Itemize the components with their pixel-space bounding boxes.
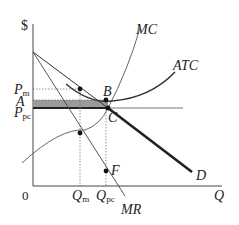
y-axis-label: $ — [21, 18, 28, 33]
point-mr-mc — [78, 131, 83, 136]
origin-label: 0 — [22, 188, 29, 203]
point-c-label: C — [108, 110, 118, 125]
qm-label: Qm — [72, 188, 89, 204]
point-f — [104, 169, 109, 174]
demand-label: D — [195, 168, 206, 183]
point-b-label: B — [103, 84, 112, 99]
mc-label: MC — [135, 22, 158, 37]
economics-diagram: $ Q 0 MC ATC D MR B C F Pm A Ppc Qm Qpc — [0, 0, 239, 225]
mc-curve — [22, 28, 140, 163]
ppc-label: Ppc — [13, 105, 31, 121]
point-f-label: F — [110, 163, 120, 178]
qpc-label: Qpc — [96, 188, 115, 204]
mr-label: MR — [120, 202, 142, 217]
atc-label: ATC — [172, 58, 199, 73]
atc-curve — [66, 72, 175, 101]
demand-curve-thick — [108, 108, 192, 172]
point-pm-demand — [78, 87, 83, 92]
x-axis-label: Q — [214, 188, 224, 203]
shaded-area — [33, 100, 108, 108]
